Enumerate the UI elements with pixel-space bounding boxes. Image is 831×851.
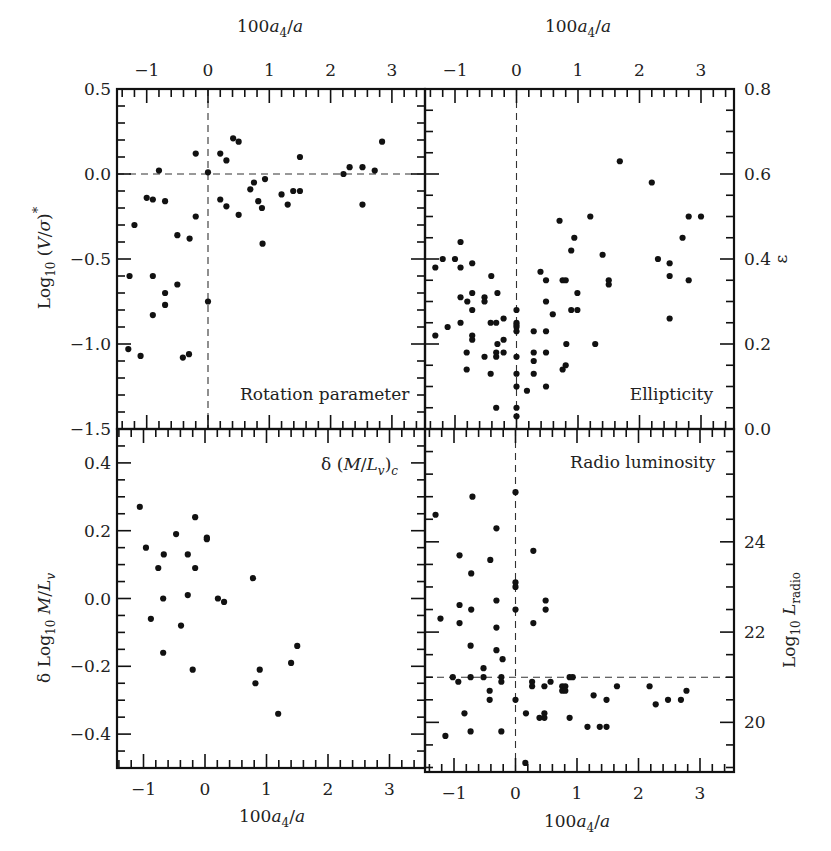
data-point <box>359 164 365 170</box>
data-point <box>251 179 257 185</box>
data-point <box>493 405 499 411</box>
data-point <box>468 643 474 649</box>
data-point <box>162 302 168 308</box>
y-axis-title-ellipticity: ε <box>771 254 791 263</box>
data-point <box>143 545 149 551</box>
data-point <box>162 290 168 296</box>
data-point <box>347 164 353 170</box>
data-point <box>493 525 499 531</box>
bottom-left-x-axis-title: 100a4/a <box>239 806 305 830</box>
data-point <box>126 273 132 279</box>
data-point <box>445 324 451 330</box>
data-point <box>512 489 518 495</box>
data-point <box>524 388 530 394</box>
data-point <box>481 298 487 304</box>
data-point <box>493 354 499 360</box>
data-point <box>340 171 346 177</box>
data-point <box>205 169 211 175</box>
data-point <box>488 371 494 377</box>
data-point <box>574 307 580 313</box>
data-point <box>464 366 470 372</box>
y-tick-label: 0.0 <box>84 589 111 609</box>
data-point <box>480 665 486 671</box>
x-tick-label: 1 <box>261 779 272 799</box>
data-point <box>547 679 553 685</box>
data-point <box>469 307 475 313</box>
data-point <box>215 595 221 601</box>
data-point <box>290 188 296 194</box>
data-point <box>150 312 156 318</box>
bottom-right-x-axis-title: 100a4/a <box>544 811 610 835</box>
data-point <box>531 349 537 355</box>
panel-frame <box>425 429 734 772</box>
svg-text:Log10 (V/σ)*: Log10 (V/σ)* <box>30 206 58 309</box>
data-point <box>494 341 500 347</box>
panel-label: Radio luminosity <box>570 452 715 472</box>
data-point <box>513 307 519 313</box>
data-point <box>174 232 180 238</box>
data-point <box>440 256 446 262</box>
data-point <box>655 256 661 262</box>
data-point <box>156 168 162 174</box>
data-point <box>468 674 474 680</box>
data-point <box>541 715 547 721</box>
data-point <box>543 383 549 389</box>
y-tick-label: 0.6 <box>744 164 771 184</box>
data-point <box>247 186 253 192</box>
y-tick-label: 0.0 <box>744 419 771 439</box>
data-point <box>259 205 265 211</box>
x-tick-label: 2 <box>323 779 334 799</box>
data-point <box>469 494 475 500</box>
x-tick-label: 1 <box>264 60 275 80</box>
data-point <box>455 679 461 685</box>
data-point <box>488 320 494 326</box>
data-point <box>461 710 467 716</box>
panel-bottom-right: −10123202224Radio luminosity <box>425 429 766 803</box>
data-point <box>294 643 300 649</box>
svg-text:Log10 Lradio: Log10 Lradio <box>779 572 803 668</box>
data-point <box>185 592 191 598</box>
data-point <box>192 514 198 520</box>
x-tick-label: 1 <box>572 783 583 803</box>
y-tick-label: 0.8 <box>744 79 771 99</box>
data-point <box>567 715 573 721</box>
data-point <box>513 405 519 411</box>
data-point <box>512 697 518 703</box>
data-point <box>513 354 519 360</box>
data-point <box>500 315 506 321</box>
data-point <box>259 241 265 247</box>
data-point <box>297 154 303 160</box>
data-point <box>543 328 549 334</box>
data-point <box>217 196 223 202</box>
top-right-x-axis-title: 100a4/a <box>545 16 611 40</box>
data-point <box>679 235 685 241</box>
data-point <box>513 413 519 419</box>
data-point <box>543 597 549 603</box>
data-point <box>255 198 261 204</box>
data-point <box>150 196 156 202</box>
y-tick-label: −1.0 <box>70 334 111 354</box>
x-tick-label: 2 <box>634 60 645 80</box>
data-point <box>432 264 438 270</box>
data-point <box>275 711 281 717</box>
panel-frame <box>117 89 425 429</box>
data-point <box>530 620 536 626</box>
data-point <box>160 650 166 656</box>
y-tick-label: 0.2 <box>84 521 111 541</box>
data-point <box>468 570 474 576</box>
data-point <box>603 724 609 730</box>
data-point <box>665 697 671 703</box>
y-tick-label: 0.2 <box>744 334 771 354</box>
y-tick-label: −0.2 <box>70 656 111 676</box>
data-point <box>653 701 659 707</box>
data-point <box>584 724 590 730</box>
x-tick-label: 0 <box>200 779 211 799</box>
data-point <box>570 674 576 680</box>
data-point <box>646 683 652 689</box>
data-point <box>563 362 569 368</box>
data-point <box>150 273 156 279</box>
data-point <box>562 688 568 694</box>
data-point <box>468 728 474 734</box>
data-point <box>262 176 268 182</box>
panel-top-left: −10123−1.5−1.0−0.50.00.5Rotation paramet… <box>70 60 425 439</box>
